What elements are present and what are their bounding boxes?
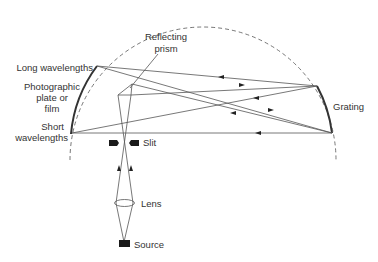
label-long-wavelengths: Long wavelengths — [16, 62, 93, 73]
label-photographic: Photographic — [24, 81, 80, 92]
label-short: Short — [41, 121, 64, 132]
label-photographic-3: film — [45, 103, 60, 114]
light-rays — [72, 54, 332, 242]
label-reflecting-prism: Reflecting — [145, 31, 187, 42]
label-grating: Grating — [333, 101, 364, 112]
source — [119, 240, 130, 247]
label-reflecting-prism-2: prism — [154, 43, 177, 54]
lens — [115, 200, 135, 207]
spectrograph-diagram: Reflecting prism Long wavelengths Photog… — [0, 0, 378, 262]
label-lens: Lens — [141, 198, 162, 209]
label-slit: Slit — [143, 137, 157, 148]
label-short-2: wavelengths — [14, 132, 68, 143]
label-photographic-2: plate or — [36, 92, 68, 103]
grating — [317, 86, 332, 133]
label-source: Source — [134, 239, 164, 250]
